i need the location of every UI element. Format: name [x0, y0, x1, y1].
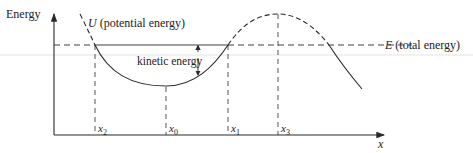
kinetic-energy-label: kinetic energy [137, 55, 202, 68]
x-axis-label: x [377, 137, 384, 151]
curve-symbol: U [88, 16, 98, 30]
vertical-guides [95, 14, 278, 135]
total-energy-description: (total energy) [395, 38, 460, 52]
curve-label: U(potential energy) [88, 16, 185, 30]
total-energy-symbol: E [384, 38, 393, 52]
curve-description: (potential energy) [100, 16, 185, 30]
total-energy-label: E(total energy) [384, 38, 460, 52]
y-axis-label: Energy [6, 7, 40, 21]
potential-energy-diagram: Energy U(potential energy) E(total energ… [0, 0, 473, 153]
diagram-canvas: Energy U(potential energy) E(total energ… [0, 0, 473, 153]
